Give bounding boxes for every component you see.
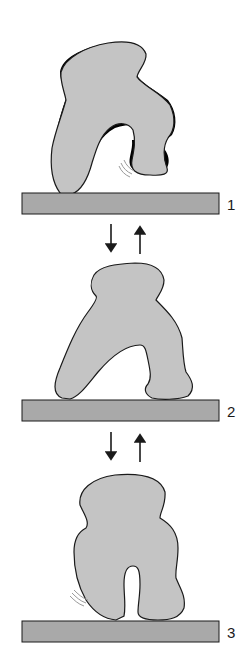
stage-3: 3 (22, 474, 235, 642)
stage-2: 2 (22, 263, 235, 421)
protein-shape-2 (55, 263, 192, 399)
surface-bar-2 (22, 400, 219, 421)
transition-arrows-1-2 (111, 224, 140, 254)
protein-shape-1 (51, 42, 174, 195)
protein-shape-3 (74, 474, 184, 620)
surface-bar-1 (22, 193, 219, 214)
surface-bar-3 (22, 621, 219, 642)
stage-label-2: 2 (227, 403, 235, 420)
diagram-canvas: 1 2 3 (0, 0, 251, 666)
stage-label-1: 1 (227, 196, 235, 213)
stage-label-3: 3 (227, 624, 235, 641)
transition-arrows-2-3 (111, 432, 140, 462)
stage-1: 1 (22, 42, 235, 214)
